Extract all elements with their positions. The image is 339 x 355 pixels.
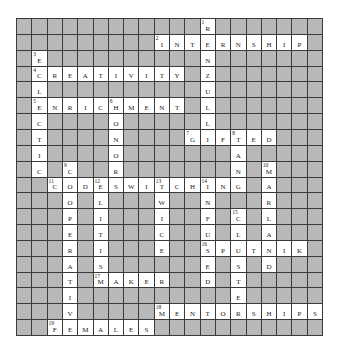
letter-cell[interactable]: O: [63, 178, 77, 193]
letter-cell[interactable]: C: [94, 98, 108, 113]
letter-cell[interactable]: N: [201, 193, 215, 208]
letter-cell[interactable]: I: [155, 209, 169, 224]
letter-cell[interactable]: 15C: [231, 209, 245, 224]
letter-cell[interactable]: D: [78, 178, 92, 193]
letter-cell[interactable]: N: [201, 51, 215, 66]
letter-cell[interactable]: E: [63, 320, 77, 335]
letter-cell[interactable]: N: [231, 35, 245, 50]
letter-cell[interactable]: L: [109, 320, 123, 335]
letter-cell[interactable]: E: [201, 35, 215, 50]
letter-cell[interactable]: T: [94, 225, 108, 240]
letter-cell[interactable]: I: [109, 67, 123, 82]
letter-cell[interactable]: S: [109, 178, 123, 193]
letter-cell[interactable]: E: [247, 130, 261, 145]
letter-cell[interactable]: R: [48, 67, 62, 82]
letter-cell[interactable]: T: [170, 98, 184, 113]
letter-cell[interactable]: I: [63, 288, 77, 303]
letter-cell[interactable]: R: [63, 241, 77, 256]
letter-cell[interactable]: 8T: [231, 130, 245, 145]
letter-cell[interactable]: T: [201, 304, 215, 319]
letter-cell[interactable]: C: [155, 225, 169, 240]
letter-cell[interactable]: O: [63, 193, 77, 208]
letter-cell[interactable]: N: [185, 304, 199, 319]
letter-cell[interactable]: Z: [201, 67, 215, 82]
letter-cell[interactable]: 4C: [32, 67, 46, 82]
letter-cell[interactable]: T: [32, 130, 46, 145]
letter-cell[interactable]: 17M: [94, 273, 108, 288]
letter-cell[interactable]: H: [185, 178, 199, 193]
letter-cell[interactable]: E: [139, 273, 153, 288]
letter-cell[interactable]: L: [32, 82, 46, 97]
letter-cell[interactable]: A: [78, 67, 92, 82]
letter-cell[interactable]: N: [216, 178, 230, 193]
letter-cell[interactable]: I: [139, 178, 153, 193]
letter-cell[interactable]: 7G: [185, 130, 199, 145]
letter-cell[interactable]: I: [94, 209, 108, 224]
letter-cell[interactable]: U: [201, 225, 215, 240]
letter-cell[interactable]: O: [109, 146, 123, 161]
letter-cell[interactable]: E: [155, 241, 169, 256]
letter-cell[interactable]: A: [262, 225, 276, 240]
letter-cell[interactable]: S: [308, 304, 322, 319]
letter-cell[interactable]: 18M: [155, 304, 169, 319]
letter-cell[interactable]: 2I: [155, 35, 169, 50]
letter-cell[interactable]: G: [231, 178, 245, 193]
letter-cell[interactable]: V: [63, 304, 77, 319]
letter-cell[interactable]: I: [277, 35, 291, 50]
letter-cell[interactable]: C: [170, 178, 184, 193]
letter-cell[interactable]: L: [201, 114, 215, 129]
letter-cell[interactable]: C: [32, 114, 46, 129]
letter-cell[interactable]: W: [155, 193, 169, 208]
letter-cell[interactable]: N: [109, 130, 123, 145]
letter-cell[interactable]: U: [231, 241, 245, 256]
letter-cell[interactable]: T: [185, 35, 199, 50]
letter-cell[interactable]: E: [231, 288, 245, 303]
letter-cell[interactable]: E: [139, 98, 153, 113]
letter-cell[interactable]: P: [292, 304, 306, 319]
letter-cell[interactable]: O: [216, 304, 230, 319]
letter-cell[interactable]: U: [201, 82, 215, 97]
letter-cell[interactable]: O: [109, 114, 123, 129]
letter-cell[interactable]: 16S: [201, 241, 215, 256]
letter-cell[interactable]: S: [247, 304, 261, 319]
letter-cell[interactable]: 1R: [201, 19, 215, 34]
letter-cell[interactable]: T: [231, 273, 245, 288]
letter-cell[interactable]: I: [201, 130, 215, 145]
letter-cell[interactable]: I: [94, 241, 108, 256]
letter-cell[interactable]: R: [231, 304, 245, 319]
letter-cell[interactable]: N: [231, 162, 245, 177]
letter-cell[interactable]: F: [201, 209, 215, 224]
letter-cell[interactable]: L: [94, 193, 108, 208]
letter-cell[interactable]: E: [170, 304, 184, 319]
letter-cell[interactable]: D: [262, 257, 276, 272]
letter-cell[interactable]: R: [262, 193, 276, 208]
letter-cell[interactable]: S: [231, 257, 245, 272]
letter-cell[interactable]: S: [139, 320, 153, 335]
letter-cell[interactable]: L: [231, 225, 245, 240]
letter-cell[interactable]: T: [155, 67, 169, 82]
letter-cell[interactable]: 11C: [48, 178, 62, 193]
letter-cell[interactable]: A: [63, 257, 77, 272]
letter-cell[interactable]: P: [292, 35, 306, 50]
letter-cell[interactable]: E: [201, 257, 215, 272]
letter-cell[interactable]: N: [262, 241, 276, 256]
letter-cell[interactable]: 5E: [32, 98, 46, 113]
letter-cell[interactable]: I: [139, 67, 153, 82]
letter-cell[interactable]: F: [216, 130, 230, 145]
letter-cell[interactable]: 14I: [201, 178, 215, 193]
letter-cell[interactable]: I: [78, 98, 92, 113]
letter-cell[interactable]: T: [94, 67, 108, 82]
letter-cell[interactable]: E: [124, 320, 138, 335]
letter-cell[interactable]: L: [262, 209, 276, 224]
letter-cell[interactable]: K: [124, 273, 138, 288]
letter-cell[interactable]: C: [32, 162, 46, 177]
letter-cell[interactable]: H: [262, 304, 276, 319]
letter-cell[interactable]: 6H: [109, 98, 123, 113]
letter-cell[interactable]: L: [201, 98, 215, 113]
letter-cell[interactable]: I: [277, 304, 291, 319]
letter-cell[interactable]: R: [109, 162, 123, 177]
letter-cell[interactable]: I: [32, 146, 46, 161]
letter-cell[interactable]: M: [124, 98, 138, 113]
letter-cell[interactable]: E: [63, 225, 77, 240]
letter-cell[interactable]: R: [63, 98, 77, 113]
